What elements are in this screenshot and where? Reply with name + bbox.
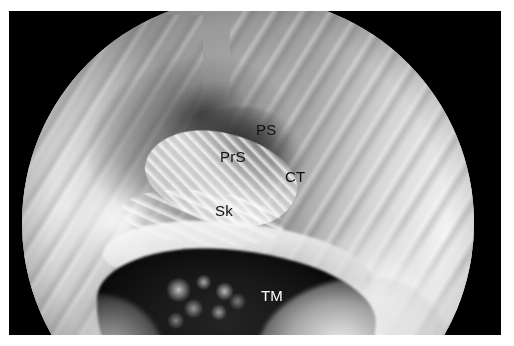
photo-black-frame: PS PrS CT Sk TM [9,11,501,335]
endoscope-field-of-view [22,11,474,335]
annotation-label-prs: PrS [220,149,246,164]
annotation-label-ps: PS [256,122,276,137]
figure-root: PS PrS CT Sk TM [0,0,514,346]
annotation-label-tm: TM [261,288,283,303]
annotation-label-sk: Sk [215,203,233,218]
tympanic-membrane-crust [155,263,261,335]
annotation-label-ct: CT [285,169,305,184]
